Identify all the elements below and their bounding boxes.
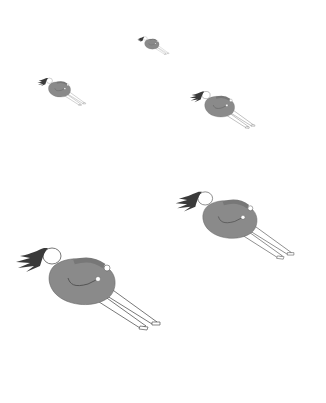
floating-figure-small-left [36, 74, 88, 106]
floating-figure-large [12, 236, 167, 331]
floating-figure-small-right [188, 86, 258, 129]
figure-illustration-icon [136, 34, 171, 55]
floating-figure-medium [172, 182, 300, 260]
figure-illustration-icon [36, 74, 88, 106]
figure-illustration-icon [172, 182, 300, 260]
figure-illustration-icon [188, 86, 258, 129]
figure-illustration-icon [12, 236, 167, 331]
floating-figure-tiny [136, 34, 171, 55]
